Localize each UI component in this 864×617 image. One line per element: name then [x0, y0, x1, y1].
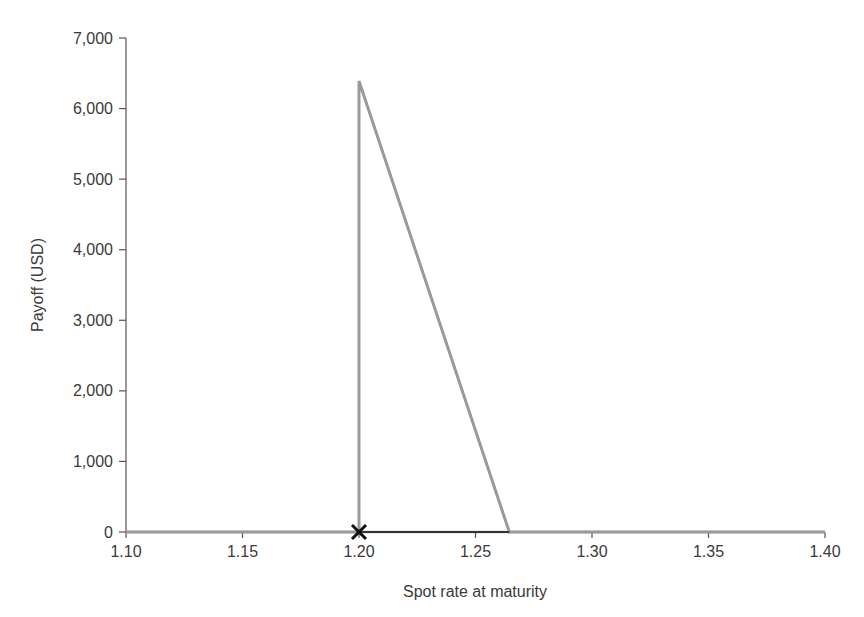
y-tick-label: 0 [104, 524, 113, 541]
payoff-chart: 01,0002,0003,0004,0005,0006,0007,000 1.1… [0, 0, 864, 617]
x-tick-label: 1.20 [343, 543, 374, 560]
y-tick-label: 7,000 [73, 30, 113, 47]
y-tick-label: 2,000 [73, 382, 113, 399]
x-tick-label: 1.10 [110, 543, 141, 560]
y-tick-label: 4,000 [73, 241, 113, 258]
y-tick-label: 1,000 [73, 453, 113, 470]
x-tick-label: 1.30 [576, 543, 607, 560]
y-tick-label: 3,000 [73, 312, 113, 329]
x-tick-label: 1.15 [227, 543, 258, 560]
x-tick-label: 1.35 [693, 543, 724, 560]
payoff-line [126, 81, 825, 532]
x-axis-title: Spot rate at maturity [403, 583, 547, 600]
x-tick-label: 1.25 [460, 543, 491, 560]
plot-area [126, 81, 825, 539]
y-tick-label: 5,000 [73, 171, 113, 188]
x-axis: 1.101.151.201.251.301.351.40 [110, 532, 840, 560]
x-tick-label: 1.40 [809, 543, 840, 560]
y-tick-label: 6,000 [73, 100, 113, 117]
y-axis: 01,0002,0003,0004,0005,0006,0007,000 [73, 30, 126, 541]
y-axis-title: Payoff (USD) [29, 238, 46, 332]
